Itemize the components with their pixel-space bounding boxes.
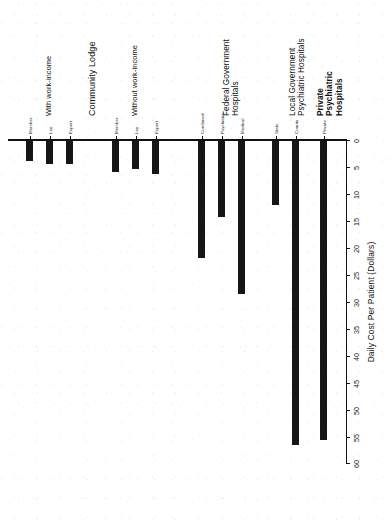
axis-tick-label-25: 25: [352, 272, 361, 280]
axis-tick-label-15: 15: [352, 218, 361, 226]
cat-label-without-lay: Lay: [133, 127, 138, 134]
cat-tick-with-member: [30, 136, 31, 140]
axis-tick-label-35: 35: [352, 326, 361, 334]
group-label-federal-line2: Hospitals: [231, 39, 240, 116]
axis-tick-label-55: 55: [352, 434, 361, 442]
subgroup-label-with-work-income: With work-income: [44, 56, 53, 116]
chart-page: 0 5 10 15 20 25 30 35 40 45 50 55: [0, 0, 392, 520]
axis-tick-35: [346, 329, 350, 330]
axis-tick-30: [346, 302, 350, 303]
axis-tick-15: [346, 221, 350, 222]
subgroup-label-without-work-income: Without work-income: [130, 45, 139, 116]
group-label-federal-line1: Federal Government: [222, 39, 231, 116]
bar-without-member: [112, 141, 119, 172]
group-label-community-lodge: Community Lodge: [88, 41, 97, 116]
axis-tick-50: [346, 410, 350, 411]
axis-tick-label-40: 40: [352, 353, 361, 361]
group-label-private-line1: Private: [316, 71, 325, 116]
value-axis-title: Daily Cost Per Patient (Dollars): [366, 140, 376, 464]
axis-tick-10: [346, 194, 350, 195]
group-label-federal-government: Federal Government Hospitals: [222, 39, 241, 116]
cat-label-with-lay: Lay: [47, 127, 52, 134]
axis-tick-label-20: 20: [352, 245, 361, 253]
cat-tick-with-lay: [50, 136, 51, 140]
axis-tick-60: [346, 463, 350, 464]
cat-label-private: Private: [321, 120, 326, 134]
axis-tick-label-45: 45: [352, 380, 361, 388]
cat-label-county: County: [293, 120, 298, 134]
bar-chart: 0 5 10 15 20 25 30 35 40 45 50 55: [0, 0, 392, 520]
cat-tick-county: [296, 136, 297, 140]
cat-label-with-member: Member: [27, 118, 32, 134]
cat-label-state: State: [273, 123, 278, 134]
bar-without-expert: [152, 141, 159, 174]
cat-label-combined: Combined: [199, 114, 204, 134]
group-label-local-line2: Psychiatric Hospitals: [297, 38, 306, 116]
cat-tick-with-expert: [70, 136, 71, 140]
axis-tick-5: [346, 167, 350, 168]
axis-tick-label-50: 50: [352, 407, 361, 415]
axis-tick-45: [346, 383, 350, 384]
cat-label-medical: Medical: [239, 119, 244, 134]
axis-tick-label-60: 60: [352, 460, 361, 468]
cat-tick-state: [276, 136, 277, 140]
cat-tick-combined: [202, 136, 203, 140]
axis-tick-40: [346, 356, 350, 357]
cat-tick-without-expert: [156, 136, 157, 140]
axis-tick-label-5: 5: [352, 166, 361, 170]
bar-county: [292, 141, 299, 445]
bar-medical: [238, 141, 245, 294]
cat-label-without-expert: Expert: [153, 121, 158, 134]
cat-label-with-expert: Expert: [67, 121, 72, 134]
bar-psychiatric: [218, 141, 225, 217]
group-label-private-line2: Psychiatric: [325, 71, 334, 116]
cat-label-without-member: Member: [113, 118, 118, 134]
bar-private: [320, 141, 327, 440]
bar-with-member: [26, 141, 33, 161]
bar-without-lay: [132, 141, 139, 169]
axis-tick-55: [346, 437, 350, 438]
bar-state: [272, 141, 279, 205]
group-label-private: Private Psychiatric Hospitals: [316, 71, 344, 116]
cat-tick-psychiatric: [222, 136, 223, 140]
group-label-local-line1: Local Government: [288, 38, 297, 116]
axis-tick-label-10: 10: [352, 191, 361, 199]
axis-tick-label-0: 0: [352, 139, 361, 143]
group-label-local-government: Local Government Psychiatric Hospitals: [288, 38, 307, 116]
bar-combined: [198, 141, 205, 258]
bar-with-lay: [46, 141, 53, 164]
bar-with-expert: [66, 141, 73, 164]
cat-tick-without-lay: [136, 136, 137, 140]
axis-tick-20: [346, 248, 350, 249]
cat-tick-without-member: [116, 136, 117, 140]
cat-tick-medical: [242, 136, 243, 140]
cat-tick-private: [324, 136, 325, 140]
group-label-private-line3: Hospitals: [335, 71, 344, 116]
axis-tick-label-30: 30: [352, 299, 361, 307]
axis-tick-25: [346, 275, 350, 276]
rotated-chart-canvas: 0 5 10 15 20 25 30 35 40 45 50 55: [0, 0, 392, 520]
